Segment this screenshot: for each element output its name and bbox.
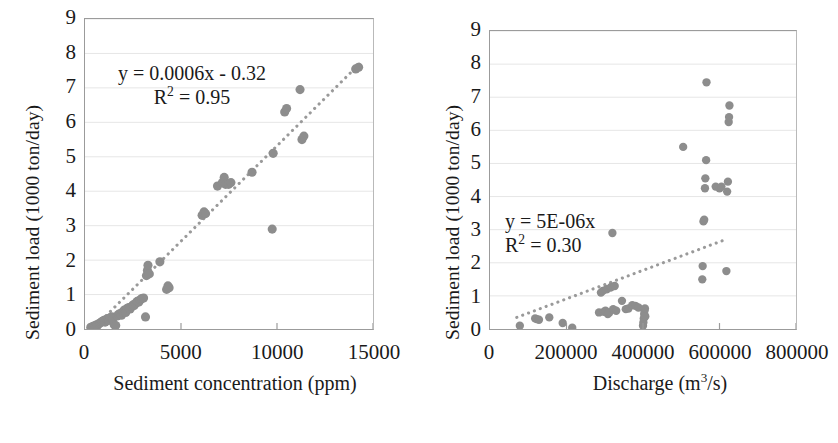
regression-annotation-left: y = 0.0006x - 0.32 R2 = 0.95 (118, 62, 266, 109)
data-point (545, 313, 553, 321)
data-point (141, 312, 150, 321)
r-squared-line-right: R2 = 0.30 (505, 234, 595, 258)
scatter-plot-right (490, 31, 796, 329)
data-point (698, 262, 706, 270)
data-point (299, 132, 308, 141)
data-point (725, 113, 733, 121)
y-axis-tick-label: 8 (455, 52, 481, 73)
sediment-regression-figure: Sediment load (1000 ton/day) 0123456789 … (0, 0, 838, 443)
data-point (702, 78, 710, 86)
data-point (354, 63, 363, 72)
data-point (201, 209, 210, 218)
y-axis-tick-label: 6 (455, 119, 481, 140)
y-axis-tick-label: 1 (455, 286, 481, 307)
r-squared-line-left: R2 = 0.95 (118, 86, 266, 110)
data-point (723, 187, 731, 195)
plot-area-right (489, 30, 797, 330)
data-point (516, 322, 524, 329)
x-axis-title-right: Discharge (m3/s) (520, 372, 800, 395)
data-point (155, 257, 164, 266)
data-point (611, 282, 619, 290)
x-axis-tick-label: 10000 (227, 342, 327, 363)
y-axis-tick-label: 9 (50, 7, 76, 28)
equation-line-left: y = 0.0006x - 0.32 (118, 62, 266, 86)
data-point (612, 307, 620, 315)
equation-line-right: y = 5E-06x (505, 210, 595, 234)
data-point (700, 216, 708, 224)
data-point (701, 174, 709, 182)
data-point (145, 269, 154, 278)
data-point (608, 229, 616, 237)
y-axis-tick-label: 6 (50, 111, 76, 132)
data-point (679, 143, 687, 151)
data-point (701, 184, 709, 192)
y-axis-tick-label: 7 (50, 76, 76, 97)
data-point (722, 267, 730, 275)
data-point (698, 275, 706, 283)
y-axis-tick-label: 3 (455, 219, 481, 240)
data-point (535, 316, 543, 324)
data-point (724, 177, 732, 185)
y-axis-tick-label: 5 (50, 146, 76, 167)
data-point (618, 297, 626, 305)
y-axis-tick-label: 4 (50, 180, 76, 201)
data-point (247, 168, 256, 177)
data-point (295, 85, 304, 94)
y-axis-tick-label: 4 (455, 186, 481, 207)
chart-panel-right: Sediment load (1000 ton/day) 0123456789 … (420, 0, 838, 443)
data-point (139, 293, 148, 302)
data-point (559, 319, 567, 327)
regression-annotation-right: y = 5E-06x R2 = 0.30 (505, 210, 595, 257)
data-point (165, 283, 174, 292)
data-point (702, 156, 710, 164)
data-point (282, 104, 291, 113)
x-axis-tick-label: 0 (34, 342, 134, 363)
data-point (725, 101, 733, 109)
x-axis-tick-label: 800000 (747, 342, 838, 363)
y-axis-tick-label: 3 (50, 215, 76, 236)
y-axis-tick-label: 2 (455, 252, 481, 273)
y-axis-tick-label: 2 (50, 250, 76, 271)
data-point (226, 178, 235, 187)
data-point (641, 304, 649, 312)
chart-panel-left: Sediment load (1000 ton/day) 0123456789 … (0, 0, 420, 443)
data-point (568, 324, 576, 329)
y-axis-tick-label: 1 (50, 284, 76, 305)
y-axis-tick-label: 0 (455, 319, 481, 340)
data-point (143, 261, 152, 270)
y-axis-tick-label: 7 (455, 86, 481, 107)
y-axis-tick-label: 9 (455, 19, 481, 40)
y-axis-tick-label: 5 (455, 152, 481, 173)
y-axis-tick-label: 8 (50, 42, 76, 63)
data-point (641, 312, 649, 320)
data-point (268, 225, 277, 234)
data-point (269, 149, 278, 158)
x-axis-tick-label: 5000 (131, 342, 231, 363)
x-axis-tick-label: 15000 (324, 342, 424, 363)
y-axis-title-left: Sediment load (1000 ton/day) (22, 105, 44, 340)
y-axis-tick-label: 0 (50, 319, 76, 340)
x-axis-title-left: Sediment concentration (ppm) (60, 372, 410, 395)
